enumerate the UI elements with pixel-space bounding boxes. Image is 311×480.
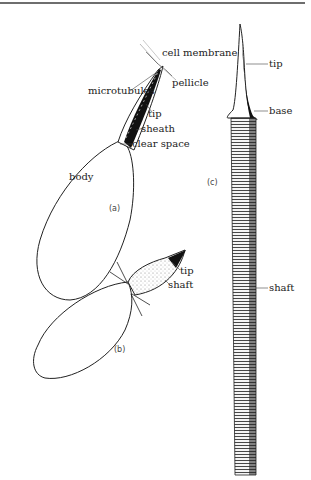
label-clear-space: clear space xyxy=(132,138,190,149)
diagram-drawing xyxy=(0,0,311,480)
label-pellicle: pellicle xyxy=(172,77,209,88)
label-tip-b: tip xyxy=(180,265,194,276)
label-base: base xyxy=(269,105,292,116)
label-shaft-b: shaft xyxy=(168,279,193,290)
panel-c-drawing xyxy=(227,24,268,475)
label-cell-membrane: cell membrane xyxy=(162,47,237,58)
caption-c: (c) xyxy=(207,178,218,187)
caption-b: (b) xyxy=(114,345,125,354)
label-microtubules: microtubules xyxy=(88,85,155,96)
label-sheath: sheath xyxy=(141,123,175,134)
label-tip-c: tip xyxy=(269,58,283,69)
label-shaft-c: shaft xyxy=(269,282,294,293)
label-tip-a: tip xyxy=(148,108,162,119)
label-body: body xyxy=(69,171,93,182)
caption-a: (a) xyxy=(109,204,120,213)
